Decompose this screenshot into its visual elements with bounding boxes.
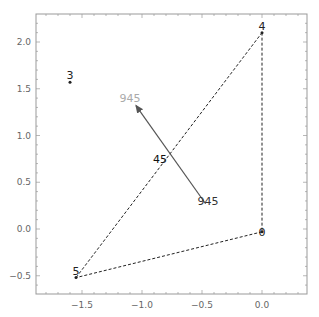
frame-rect [36, 14, 307, 294]
y-tick-label: 1.0 [17, 131, 32, 141]
point-label: 0 [259, 226, 266, 239]
point-label: 5 [73, 265, 80, 278]
point-label: 4 [259, 20, 266, 33]
y-tick-label: 0.5 [17, 177, 31, 187]
y-tick-label: −0.5 [9, 271, 31, 281]
x-tick-label: −0.5 [191, 300, 213, 310]
y-tick-label: 1.5 [17, 84, 31, 94]
x-tick-label: −1.0 [131, 300, 153, 310]
plot-frame [36, 14, 307, 294]
data-points: 4053 [67, 20, 266, 279]
dashed-edge [76, 33, 262, 278]
y-tick-label: 2.0 [17, 37, 32, 47]
dashed-edge [76, 232, 262, 278]
dashed-edges [76, 33, 262, 278]
x-tick-label: 0.0 [255, 300, 270, 310]
annotation-label: 45 [153, 153, 167, 166]
x-tick-label: −1.5 [71, 300, 93, 310]
annotation-label: 945 [120, 92, 141, 105]
scatter-plot: −1.5−1.0−0.50.0−0.50.00.51.01.52.0 4053 … [0, 0, 319, 317]
annotation-label: 945 [198, 195, 219, 208]
point-label: 3 [67, 69, 74, 82]
y-tick-label: 0.0 [17, 224, 32, 234]
